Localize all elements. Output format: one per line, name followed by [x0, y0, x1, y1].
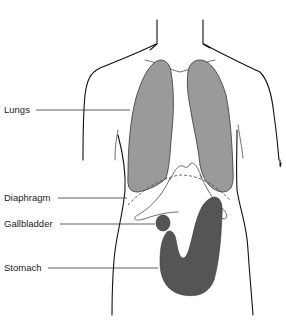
torso-diagram: Lungs Diaphragm Gallbladder Stomach — [0, 0, 286, 323]
label-stomach-text: Stomach — [4, 262, 42, 273]
label-lungs: Lungs — [4, 104, 130, 115]
mediastinum-outline — [170, 163, 202, 180]
label-lungs-text: Lungs — [4, 104, 30, 115]
stomach — [160, 197, 222, 296]
label-gallbladder-text: Gallbladder — [4, 218, 53, 229]
label-stomach: Stomach — [4, 262, 158, 273]
left-lung — [128, 60, 174, 192]
label-diaphragm: Diaphragm — [4, 192, 127, 203]
label-gallbladder: Gallbladder — [4, 218, 155, 229]
right-lung — [187, 60, 233, 192]
gallbladder — [156, 215, 170, 231]
label-diaphragm-text: Diaphragm — [4, 192, 51, 203]
